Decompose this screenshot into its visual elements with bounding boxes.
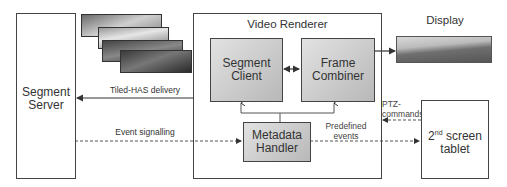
ptz-commands-label: PTZ- commands bbox=[382, 99, 424, 119]
metadata-handler-line2: Handler bbox=[252, 142, 302, 155]
predefined-events-label: Predefined events bbox=[318, 121, 374, 141]
tablet-box: 2nd screen tablet bbox=[421, 100, 489, 179]
tablet-label-line2: tablet bbox=[422, 143, 488, 156]
tile-image-4 bbox=[120, 50, 192, 73]
frame-combiner-line2: Combiner bbox=[312, 70, 364, 83]
segment-client-box: Segment Client bbox=[210, 38, 283, 102]
display-label: Display bbox=[400, 14, 490, 27]
segment-server-box: Segment Server bbox=[16, 13, 76, 179]
event-signalling-label: Event signalling bbox=[100, 126, 190, 139]
tiled-has-label: Tiled-HAS delivery bbox=[100, 84, 190, 97]
frame-combiner-box: Frame Combiner bbox=[301, 38, 375, 102]
segment-client-line2: Client bbox=[222, 70, 270, 83]
segment-server-label-line2: Server bbox=[17, 99, 75, 112]
display-image bbox=[396, 36, 492, 63]
video-renderer-title: Video Renderer bbox=[193, 18, 382, 31]
metadata-handler-box: Metadata Handler bbox=[243, 122, 311, 162]
tablet-label-line1: 2nd screen bbox=[422, 126, 488, 143]
